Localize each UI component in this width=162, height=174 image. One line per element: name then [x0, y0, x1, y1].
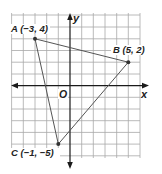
label-point-c: C (−1, −5) [11, 147, 54, 158]
x-axis-label: x [140, 88, 148, 100]
point-c [56, 142, 60, 146]
point-a [33, 37, 37, 41]
y-axis-label: y [72, 12, 80, 24]
label-point-a: A (−3, 4) [10, 23, 48, 34]
label-point-b: B (5, 2) [113, 44, 145, 55]
y-axis [67, 13, 73, 169]
coordinate-plane-figure: A (−3, 4) B (5, 2) C (−1, −5) x y O [0, 0, 162, 174]
point-b [126, 60, 130, 64]
origin-label: O [59, 88, 67, 100]
